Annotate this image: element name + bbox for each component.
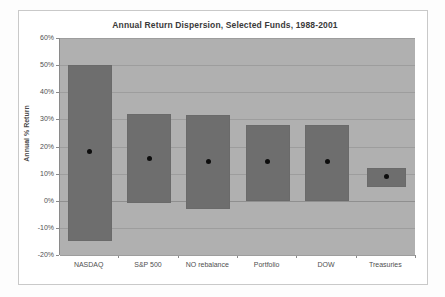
y-tick-label: -10% [14, 224, 54, 231]
x-tick-label: Treasuries [335, 261, 435, 268]
y-axis-title: Annual % Return [23, 89, 30, 179]
average-marker-s-p-500 [147, 156, 152, 161]
gridline-50 [60, 65, 415, 66]
gridline--10 [60, 228, 415, 229]
y-tick-label: 60% [14, 34, 54, 41]
y-tick-label: 0% [14, 197, 54, 204]
gridline-20 [60, 147, 415, 148]
plot-area [59, 38, 415, 255]
gridline-40 [60, 92, 415, 93]
y-tick-label: 20% [14, 143, 54, 150]
gridline-0 [60, 201, 415, 202]
y-tick-label: 40% [14, 88, 54, 95]
chart-title: Annual Return Dispersion, Selected Funds… [40, 20, 410, 30]
average-marker-dow [325, 159, 330, 164]
gridline-30 [60, 119, 415, 120]
y-tick-label: 50% [14, 61, 54, 68]
y-tick-label: -20% [14, 251, 54, 258]
average-marker-no-rebalance [206, 159, 211, 164]
gridline-10 [60, 174, 415, 175]
gridline-60 [60, 38, 415, 39]
gridline--20 [60, 255, 415, 256]
y-tick-label: 10% [14, 170, 54, 177]
y-tick-mark [56, 255, 59, 256]
average-marker-treasuries [384, 174, 389, 179]
x-tick-mark [415, 255, 416, 258]
chart-figure: Annual Return Dispersion, Selected Funds… [0, 0, 445, 297]
y-tick-label: 30% [14, 115, 54, 122]
